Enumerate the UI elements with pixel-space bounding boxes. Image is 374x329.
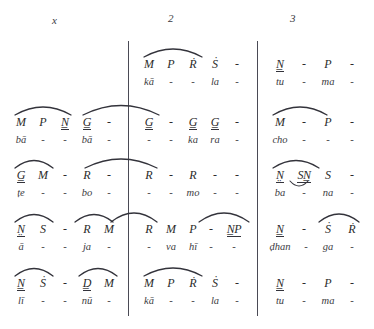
note-cell: R [76, 168, 98, 182]
slur-r1-middle [143, 44, 203, 58]
lyric-cell: va [160, 240, 182, 254]
lyric-cell: ka [182, 133, 204, 147]
lyric-line: - va hī - - [138, 240, 252, 256]
note-cell: P [316, 57, 340, 71]
note-cell: N̤ [10, 222, 32, 236]
note-cell: N̤ [268, 168, 292, 182]
note-cell: - [160, 115, 182, 129]
slur-r4-crossbar [110, 208, 158, 223]
lyric-cell: cho [268, 133, 292, 147]
lyric-cell: - [182, 75, 204, 89]
note-line: N̤ SN̲ S - [268, 168, 364, 184]
note-cell: - [54, 276, 76, 290]
note-cell: M [138, 57, 160, 71]
slur-r2-left [14, 102, 72, 116]
note-cell: - [292, 222, 316, 236]
note-cell: - [226, 276, 248, 290]
note-cell: - [204, 168, 226, 182]
measure-r4-middle: R M P - N̲P - va hī - - [138, 222, 252, 262]
note-cell: M [160, 222, 182, 236]
lyric-cell: - [204, 186, 226, 200]
lyric-cell: la [204, 75, 226, 89]
lyric-cell: ma [316, 294, 340, 308]
lyric-cell: bo [76, 186, 98, 200]
lyric-cell: - [32, 294, 54, 308]
lyric-cell: kā [138, 75, 160, 89]
note-cell: Ṡ [204, 57, 226, 71]
lyric-cell: lī [10, 294, 32, 308]
lyric-cell: ra [204, 133, 226, 147]
note-cell: M [98, 222, 120, 236]
note-cell-ligature: SN̲ [292, 168, 316, 182]
slur-r4-right [318, 209, 360, 223]
lyric-cell: tu [268, 75, 292, 89]
note-cell: - [54, 222, 76, 236]
lyric-cell: na [316, 186, 340, 200]
measure-r2-middle: G̲ - G̲ G̲ - - - ka ra - [138, 115, 248, 155]
note-line: N̲ Ṡ - D̲ M [10, 276, 120, 292]
tala-marker-3: 3 [290, 12, 296, 24]
lyric-line: kā - - la - [138, 294, 248, 310]
note-cell: Ṡ [316, 222, 340, 236]
lyric-line: tu - ma - [268, 294, 364, 310]
lyric-line: ḍhan - ga - [268, 240, 364, 256]
measure-r3-middle: R - R - - - - mo - - [138, 168, 248, 208]
note-cell: P [316, 276, 340, 290]
lyric-cell: - [340, 186, 364, 200]
lyric-cell: ā [10, 240, 32, 254]
note-cell: M [98, 276, 120, 290]
lyric-cell: - [54, 294, 76, 308]
lyric-cell: - [160, 294, 182, 308]
slur-r4-middle [198, 208, 250, 223]
measure-r4-left: N̤ S - R M ā - - ja - [10, 222, 120, 262]
lyric-line: cho - - - [268, 133, 364, 149]
lyric-cell: - [54, 133, 76, 147]
lyric-cell: ja [76, 240, 98, 254]
note-cell: N̲ [268, 276, 292, 290]
note-cell: N̲ [268, 222, 292, 236]
lyric-cell: - [32, 240, 54, 254]
note-cell: G̲ [10, 168, 32, 182]
lyric-cell: - [292, 75, 316, 89]
note-line: N̲ - P - [268, 276, 364, 292]
lyric-cell: - [226, 133, 248, 147]
note-cell: - [160, 168, 182, 182]
measure-r5-right: N̲ - P - tu - ma - [268, 276, 364, 316]
lyric-cell: - [340, 240, 364, 254]
note-cell: G̲ [204, 115, 226, 129]
lyric-cell: bā [10, 133, 32, 147]
lyric-cell: - [54, 240, 76, 254]
measure-r3-left: G̲ M - R - ṭe - - bo - [10, 168, 120, 208]
lyric-cell: - [226, 294, 248, 308]
lyric-cell: - [160, 186, 182, 200]
measure-r2-right: M - P - cho - - - [268, 115, 364, 155]
note-cell: M [138, 276, 160, 290]
lyric-cell: ba [268, 186, 292, 200]
note-cell: - [226, 57, 248, 71]
lyric-cell: ṭe [10, 186, 32, 200]
note-cell: - [340, 276, 364, 290]
lyric-cell: - [54, 186, 76, 200]
note-cell: M [268, 115, 292, 129]
lyric-cell: - [160, 133, 182, 147]
note-cell: - [98, 168, 120, 182]
note-cell: G̲ [138, 115, 160, 129]
tala-marker-2: 2 [168, 12, 174, 24]
note-cell: N̲ [10, 276, 32, 290]
note-cell: G̲ [182, 115, 204, 129]
barline-second [257, 41, 258, 316]
note-cell: P [32, 115, 54, 129]
measure-r4-right: N̲ - Ṡ Ṙ ḍhan - ga - [268, 222, 364, 262]
tala-marker-x: x [52, 14, 57, 26]
note-line: G̲ - G̲ G̲ - [138, 115, 248, 131]
lyric-cell: - [32, 186, 54, 200]
note-cell: N̲ [268, 57, 292, 71]
note-cell: M [32, 168, 54, 182]
note-cell: Ṙ [182, 276, 204, 290]
lyric-cell: mo [182, 186, 204, 200]
note-cell: - [292, 276, 316, 290]
lyric-cell: - [138, 186, 160, 200]
lyric-line: - - ka ra - [138, 133, 248, 149]
note-cell: - [340, 57, 364, 71]
slur-r2-crossbar [82, 100, 160, 116]
